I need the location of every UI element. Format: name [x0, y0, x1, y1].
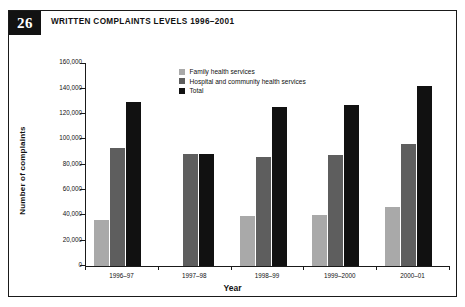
bar-group: [85, 63, 158, 266]
bar: [417, 86, 432, 266]
y-axis-tick-label: 100,000: [59, 134, 82, 141]
x-axis-tick-label: 1999–2000: [324, 272, 356, 279]
bar: [183, 154, 198, 265]
x-axis-line: [85, 266, 449, 267]
figure-container: 26 WRITTEN COMPLAINTS LEVELS 1996–2001 N…: [8, 10, 457, 297]
x-axis-title: Year: [9, 283, 456, 293]
legend-label: Total: [190, 87, 204, 94]
y-axis-title-text: Number of complaints: [18, 126, 27, 214]
x-axis-tick-label: 1997–98: [182, 272, 207, 279]
x-axis-tick-label: 1998–99: [255, 272, 280, 279]
x-axis-tick-mark: [85, 266, 86, 270]
chart-legend: Family health servicesHospital and commu…: [179, 68, 306, 97]
x-axis-tick-label: 1996–97: [109, 272, 134, 279]
y-axis-tick-label: 140,000: [59, 84, 82, 91]
bar: [126, 102, 141, 265]
y-axis-tick-label: 120,000: [59, 109, 82, 116]
x-axis-tick-label: 2000–01: [400, 272, 425, 279]
chart-plot-area: Number of complaints 160,000140,000120,0…: [9, 35, 456, 296]
bar: [328, 155, 343, 265]
legend-label: Hospital and community health services: [190, 78, 306, 85]
bar: [312, 215, 327, 266]
bar: [401, 144, 416, 266]
bar-group: [376, 63, 449, 266]
x-axis-tick-mark: [158, 266, 159, 270]
y-axis-tick-label: 160,000: [59, 58, 82, 65]
legend-item: Hospital and community health services: [179, 78, 306, 85]
figure-title: WRITTEN COMPLAINTS LEVELS 1996–2001: [51, 17, 234, 26]
bar: [256, 157, 271, 266]
bar: [344, 105, 359, 266]
bar: [272, 107, 287, 265]
x-axis-tick-mark: [449, 266, 450, 270]
figure-header: 26 WRITTEN COMPLAINTS LEVELS 1996–2001: [9, 11, 456, 35]
legend-swatch: [179, 78, 185, 84]
bar: [240, 216, 255, 265]
bar: [94, 220, 109, 266]
y-axis-title: Number of complaints: [15, 95, 29, 245]
x-axis-tick-mark: [303, 266, 304, 270]
x-axis-tick-mark: [231, 266, 232, 270]
legend-item: Total: [179, 87, 306, 94]
bar: [385, 207, 400, 265]
bar: [199, 154, 214, 265]
x-axis-tick-mark: [376, 266, 377, 270]
legend-item: Family health services: [179, 68, 306, 75]
legend-swatch: [179, 88, 185, 94]
legend-label: Family health services: [190, 68, 255, 75]
bar: [110, 148, 125, 266]
bar-group: [303, 63, 376, 266]
legend-swatch: [179, 69, 185, 75]
figure-number-badge: 26: [9, 11, 41, 35]
